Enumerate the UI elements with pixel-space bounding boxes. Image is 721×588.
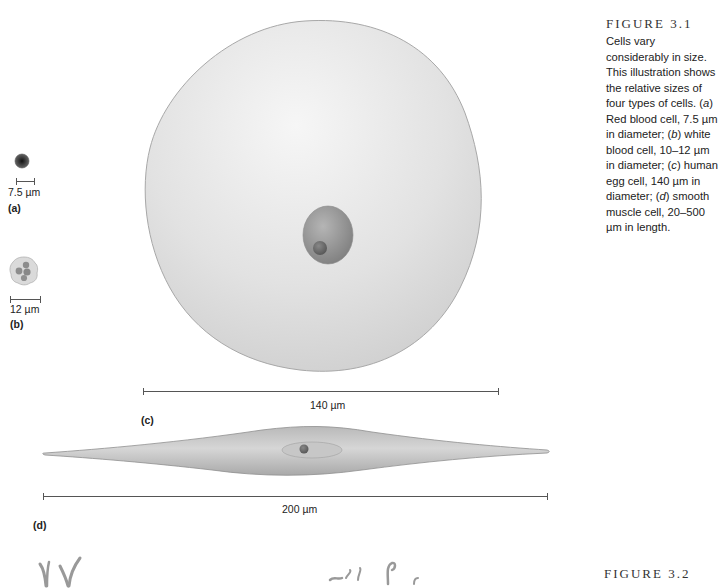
scalebar-d (43, 496, 548, 497)
scale-label-a: 7.5 µm (8, 186, 40, 198)
human-egg-cell-illustration (140, 18, 500, 388)
scale-label-c: 140 µm (310, 399, 345, 411)
scalebar-b (10, 299, 41, 300)
figure-3-2-cell-projections-right (328, 560, 448, 584)
figure-3-1-title: FIGURE 3.1 (606, 16, 692, 32)
scalebar-c (143, 391, 499, 392)
figure-3-1-caption: Cells vary considerably in size. This il… (606, 34, 721, 236)
panel-label-a: (a) (8, 202, 21, 214)
caption-intro: Cells vary considerably in size. This il… (606, 35, 715, 109)
scalebar-a (16, 181, 35, 182)
figure-3-2-cell-branches-left (38, 558, 118, 588)
white-blood-cell-illustration (8, 255, 40, 287)
scale-label-d: 200 µm (282, 503, 317, 515)
panel-label-d: (d) (33, 519, 46, 531)
panel-label-b: (b) (10, 318, 23, 330)
smooth-muscle-cell-illustration (42, 420, 552, 480)
figure-3-2-title: FIGURE 3.2 (604, 566, 690, 582)
red-blood-cell-illustration (14, 153, 30, 169)
scale-label-b: 12 µm (10, 303, 39, 315)
